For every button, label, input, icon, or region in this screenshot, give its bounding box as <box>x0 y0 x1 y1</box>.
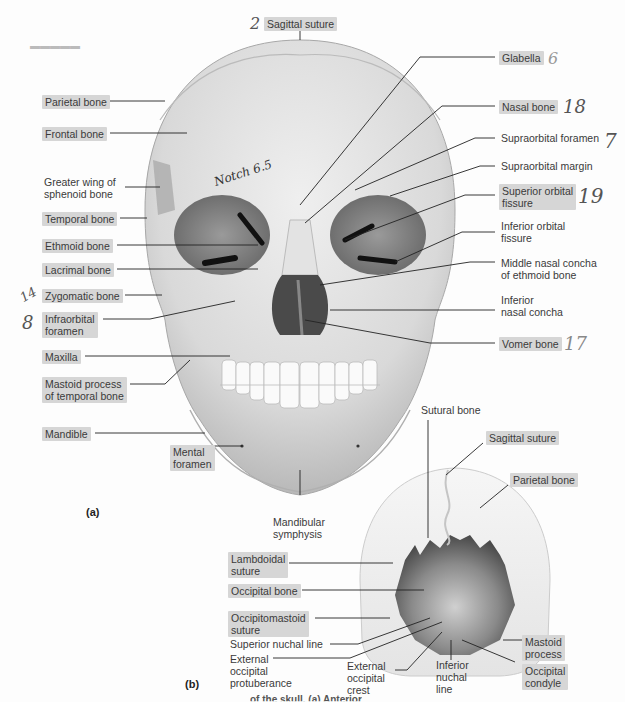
handwritten-sagittal: 2 <box>250 14 260 33</box>
anterior-skull <box>145 40 455 495</box>
label-inferior-nasal-concha: Inferior nasal concha <box>501 294 563 318</box>
label-line: Lambdoidal <box>231 553 285 565</box>
label-line: foramen <box>173 458 212 470</box>
label-zygomatic-bone: Zygomatic bone <box>42 289 123 303</box>
label-line: Mastoid <box>525 636 562 648</box>
label-occipitomastoid-suture: Occipitomastoid suture <box>228 611 309 637</box>
label-line: sphenoid bone <box>44 188 116 200</box>
label-line: fissure <box>502 197 573 209</box>
label-line: fissure <box>501 232 565 244</box>
label-line: of ethmoid bone <box>501 269 597 281</box>
label-sagittal-suture-posterior: Sagittal suture <box>486 431 559 445</box>
panel-tag-a: (a) <box>86 506 99 518</box>
label-line: of temporal bone <box>45 390 124 402</box>
label-superior-orbital-fissure: Superior orbital fissure <box>499 184 576 210</box>
label-mandible: Mandible <box>42 427 91 441</box>
label-temporal-bone: Temporal bone <box>42 212 117 226</box>
label-mastoid-process: Mastoid process <box>522 635 565 661</box>
label-external-occipital-protuberance: External occipital protuberance <box>230 653 292 689</box>
label-line: process <box>525 648 562 660</box>
label-occipital-bone: Occipital bone <box>228 584 301 598</box>
label-parietal-bone-posterior: Parietal bone <box>510 473 578 487</box>
label-line: Superior orbital <box>502 185 573 197</box>
label-external-occipital-crest: External occipital crest <box>347 660 386 696</box>
label-superior-nuchal-line: Superior nuchal line <box>230 638 323 650</box>
label-ethmoid-bone: Ethmoid bone <box>42 239 113 253</box>
label-line: Middle nasal concha <box>501 257 597 269</box>
label-mental-foramen: Mental foramen <box>170 445 215 471</box>
label-line: symphysis <box>273 528 325 540</box>
label-line: Inferior orbital <box>501 220 565 232</box>
label-line: Infraorbital <box>45 313 95 325</box>
label-line: nuchal <box>436 671 469 683</box>
label-line: nasal concha <box>501 306 563 318</box>
label-line: foramen <box>45 325 95 337</box>
label-line: line <box>436 683 469 695</box>
label-greater-wing-sphenoid: Greater wing of sphenoid bone <box>44 176 116 200</box>
label-line: protuberance <box>230 677 292 689</box>
handwritten-infraorbital: 8 <box>22 312 33 333</box>
label-frontal-bone: Frontal bone <box>42 127 107 141</box>
label-middle-nasal-concha: Middle nasal concha of ethmoid bone <box>501 257 597 281</box>
panel-tag-b: (b) <box>185 678 199 690</box>
handwritten-superior-orbital: 19 <box>578 184 603 208</box>
label-vomer-bone: Vomer bone <box>499 337 562 351</box>
label-lambdoidal-suture: Lambdoidal suture <box>228 552 288 578</box>
label-line: Occipital <box>525 665 565 677</box>
label-mandibular-symphysis: Mandibular symphysis <box>273 516 325 540</box>
label-supraorbital-foramen: Supraorbital foramen <box>501 132 599 144</box>
handwritten-glabella: 6 <box>548 49 558 68</box>
label-maxilla: Maxilla <box>42 350 81 364</box>
label-line: condyle <box>525 677 565 689</box>
label-sutural-bone: Sutural bone <box>421 404 481 416</box>
label-line: Mental <box>173 446 212 458</box>
label-line: External <box>230 653 292 665</box>
label-line: suture <box>231 624 306 636</box>
caption-fragment: of the skull. (a) Anterior <box>250 694 362 702</box>
label-line: Occipitomastoid <box>231 612 306 624</box>
handwritten-supraorbital-foramen: 7 <box>604 129 617 153</box>
handwritten-vomer: 17 <box>564 333 587 354</box>
label-line: Inferior <box>501 294 563 306</box>
label-line: suture <box>231 565 285 577</box>
handwritten-nasal: 18 <box>563 96 586 117</box>
label-line: Greater wing of <box>44 176 116 188</box>
label-supraorbital-margin: Supraorbital margin <box>501 160 593 172</box>
label-occipital-condyle: Occipital condyle <box>522 664 568 690</box>
label-lacrimal-bone: Lacrimal bone <box>42 263 114 277</box>
label-sagittal-suture-anterior: Sagittal suture <box>264 17 337 31</box>
label-mastoid-process-temporal: Mastoid process of temporal bone <box>42 377 127 403</box>
label-glabella: Glabella <box>499 51 544 65</box>
label-parietal-bone: Parietal bone <box>42 95 110 109</box>
label-line: occipital <box>230 665 292 677</box>
label-line: Mandibular <box>273 516 325 528</box>
label-line: occipital <box>347 672 386 684</box>
label-inferior-orbital-fissure: Inferior orbital fissure <box>501 220 565 244</box>
label-line: External <box>347 660 386 672</box>
label-nasal-bone: Nasal bone <box>499 100 558 114</box>
label-line: Inferior <box>436 659 469 671</box>
label-line: Mastoid process <box>45 378 124 390</box>
label-inferior-nuchal-line: Inferior nuchal line <box>436 659 469 695</box>
label-infraorbital-foramen: Infraorbital foramen <box>42 312 98 338</box>
